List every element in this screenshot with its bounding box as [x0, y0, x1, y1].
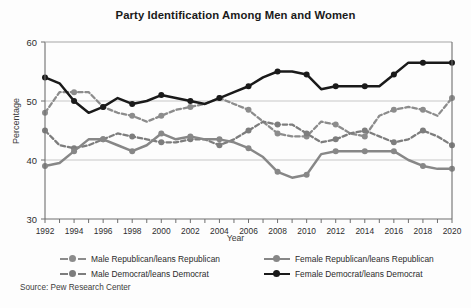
data-point — [187, 104, 193, 110]
data-point — [275, 169, 281, 175]
line-marker-icon — [264, 269, 290, 279]
data-point — [304, 172, 310, 178]
data-point — [304, 130, 310, 136]
legend-item-male-democrat[interactable]: Male Democrat/leans Democrat — [60, 266, 220, 281]
data-point — [100, 104, 106, 110]
data-point — [333, 148, 339, 154]
chart-legend: Male Republican/leans Republican Male De… — [44, 251, 464, 281]
data-point — [158, 113, 164, 119]
chart-title: Party Identification Among Men and Women — [0, 9, 471, 21]
line-marker-icon — [60, 254, 86, 264]
y-tick-label: 40 — [27, 155, 37, 166]
data-point — [71, 98, 77, 104]
data-point — [246, 83, 252, 89]
data-point — [71, 89, 77, 95]
y-tick-label: 50 — [27, 96, 37, 107]
legend-column-right: Female Republican/leans Republican Femal… — [264, 251, 434, 281]
data-point — [187, 98, 193, 104]
data-point — [129, 133, 135, 139]
data-point — [362, 128, 368, 134]
data-point — [420, 60, 426, 66]
data-point — [129, 101, 135, 107]
legend-item-female-republican[interactable]: Female Republican/leans Republican — [264, 251, 434, 266]
data-point — [333, 83, 339, 89]
plot-area: 30405060 1992199419961998200020022004200… — [0, 26, 471, 236]
data-point — [420, 163, 426, 169]
data-point — [362, 148, 368, 154]
legend-item-female-democrat[interactable]: Female Democrat/leans Democrat — [264, 266, 434, 281]
series-female_democrat — [42, 60, 455, 113]
x-axis-label: Year — [0, 233, 471, 243]
legend-label: Male Republican/leans Republican — [91, 254, 220, 264]
data-point — [362, 83, 368, 89]
data-point — [129, 148, 135, 154]
data-point — [391, 107, 397, 113]
data-point — [158, 139, 164, 145]
source-note: Source: Pew Research Center — [20, 283, 131, 292]
data-point — [216, 136, 222, 142]
y-tick-label: 60 — [27, 37, 37, 48]
data-point — [391, 139, 397, 145]
data-point — [420, 128, 426, 134]
data-point — [304, 71, 310, 77]
line-marker-icon — [264, 254, 290, 264]
line-marker-icon — [60, 269, 86, 279]
series-female_republican — [42, 130, 455, 177]
data-point — [100, 136, 106, 142]
data-point — [333, 136, 339, 142]
data-point — [275, 130, 281, 136]
legend-label: Female Republican/leans Republican — [295, 254, 434, 264]
legend-label: Female Democrat/leans Democrat — [295, 269, 423, 279]
data-point — [391, 71, 397, 77]
y-tick-label: 30 — [27, 214, 37, 225]
data-point — [420, 107, 426, 113]
data-point — [275, 122, 281, 128]
data-point — [275, 69, 281, 75]
data-point — [333, 122, 339, 128]
data-point — [246, 145, 252, 151]
data-point — [158, 130, 164, 136]
legend-label: Male Democrat/leans Democrat — [91, 269, 209, 279]
data-point — [362, 133, 368, 139]
legend-item-male-republican[interactable]: Male Republican/leans Republican — [60, 251, 220, 266]
legend-column-left: Male Republican/leans Republican Male De… — [60, 251, 220, 281]
data-point — [158, 92, 164, 98]
data-point — [129, 113, 135, 119]
data-point — [216, 95, 222, 101]
data-point — [216, 142, 222, 148]
data-point — [187, 133, 193, 139]
data-point — [246, 128, 252, 134]
data-point — [246, 107, 252, 113]
data-point — [391, 148, 397, 154]
chart-figure: Party Identification Among Men and Women… — [0, 0, 471, 308]
data-point — [71, 148, 77, 154]
